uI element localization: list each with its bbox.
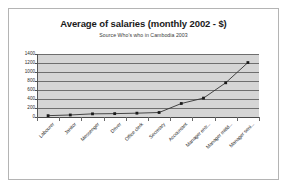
data-point-marker [224,81,227,84]
data-point-marker [180,102,183,105]
x-axis-tick-mark [37,117,38,121]
data-point-marker [69,114,72,117]
x-axis-tick-mark [259,117,260,121]
data-point-marker [91,112,94,115]
x-axis-tick-mark [59,117,60,121]
x-axis-tick-mark [148,117,149,121]
y-axis-tick-marks [9,54,37,117]
x-axis-category-label: Secretary [148,121,167,140]
series-line-chart [37,54,259,117]
chart-frame: Average of salaries (monthly 2002 - $) S… [8,8,279,180]
x-axis-category-label: Labourer [38,121,56,139]
data-point-marker [113,112,116,115]
data-point-marker [202,97,205,100]
x-axis-tick-mark [104,117,105,121]
x-axis-category-label: Driver [109,121,122,134]
data-point-marker [136,112,139,115]
x-axis-tick-mark [126,117,127,121]
series-line [48,63,248,116]
x-axis-tick-mark [192,117,193,121]
chart-title: Average of salaries (monthly 2002 - $) [9,18,278,29]
x-axis-tick-mark [81,117,82,121]
x-axis-category-label: Accountant [167,121,188,142]
x-axis-category-label: Janitor [63,121,77,135]
chart-subtitle: Source Who's who in Cambodia 2003 [9,32,278,38]
x-axis-category-label: Messenger [79,121,100,142]
data-point-marker [158,111,161,114]
x-axis-category-labels: LabourerJanitorMessengerDriverOffice cle… [37,121,259,176]
x-axis-tick-mark [237,117,238,121]
x-axis-category-label: Office clerk [123,121,144,142]
data-point-marker [47,114,50,117]
data-point-marker [247,61,250,64]
x-axis-tick-mark [215,117,216,121]
x-axis-tick-mark [170,117,171,121]
